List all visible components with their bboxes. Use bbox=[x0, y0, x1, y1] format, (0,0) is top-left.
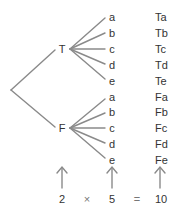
outcome-Te: Te bbox=[155, 75, 167, 87]
branch-T-b: b bbox=[109, 27, 115, 39]
outcome-Fe: Fe bbox=[155, 154, 168, 166]
outcome-Fd: Fd bbox=[155, 138, 168, 150]
edge-root-T bbox=[11, 50, 55, 90]
arrow-up-icon-middle bbox=[107, 167, 117, 188]
branch-F-a: a bbox=[109, 91, 115, 103]
branch-T-e: e bbox=[109, 75, 115, 87]
node-F: F bbox=[59, 122, 66, 134]
outcome-Tb: Tb bbox=[155, 27, 168, 39]
outcome-Fa: Fa bbox=[155, 91, 168, 103]
tree-lines bbox=[0, 0, 177, 214]
outcome-Fb: Fb bbox=[155, 106, 168, 118]
equation-equals: = bbox=[134, 193, 140, 205]
edge-root-F bbox=[11, 90, 55, 127]
branch-F-d: d bbox=[109, 138, 115, 150]
outcome-Tc: Tc bbox=[155, 43, 166, 55]
equation-left: 2 bbox=[59, 193, 65, 205]
outcome-Td: Td bbox=[155, 59, 168, 71]
arrow-up-icon-left bbox=[57, 167, 67, 188]
equation-times: × bbox=[84, 193, 90, 205]
branch-T-d: d bbox=[109, 59, 115, 71]
branch-F-b: b bbox=[109, 106, 115, 118]
node-T: T bbox=[59, 43, 66, 55]
outcome-Fc: Fc bbox=[155, 122, 167, 134]
arrow-up-icon-right bbox=[155, 167, 165, 188]
equation-right: 10 bbox=[155, 193, 167, 205]
outcome-Ta: Ta bbox=[155, 11, 167, 23]
branch-T-c: c bbox=[109, 43, 115, 55]
equation-middle: 5 bbox=[109, 193, 115, 205]
branch-F-e: e bbox=[109, 154, 115, 166]
branch-T-a: a bbox=[109, 11, 115, 23]
branch-F-c: c bbox=[109, 122, 115, 134]
